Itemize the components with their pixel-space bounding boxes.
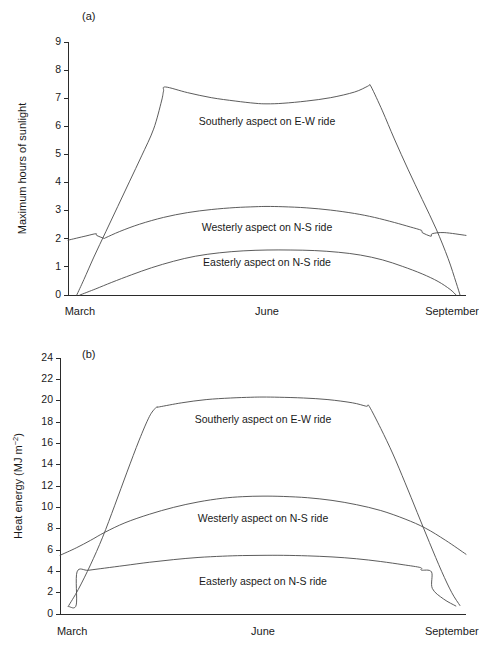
x-tick-label-a-2: September — [425, 305, 479, 317]
y-tick-label-a-4: 4 — [55, 175, 61, 187]
y-tick-label-a-9: 9 — [55, 35, 61, 47]
series-annotation-a-1: Westerly aspect on N-S ride — [202, 221, 333, 233]
series-annotation-b-0: Southerly aspect on E-W ride — [195, 413, 332, 425]
y-tick-label-a-6: 6 — [55, 119, 61, 131]
y-axis-title-a: Maximum hours of sunlight — [16, 103, 28, 234]
y-tick-label-b-10: 20 — [41, 393, 53, 405]
y-tick-label-a-0: 0 — [55, 288, 61, 300]
y-tick-label-a-7: 7 — [55, 91, 61, 103]
chart-a-canvas: 0123456789MarchJuneSeptemberMaximum hour… — [0, 0, 479, 330]
y-tick-label-b-1: 2 — [47, 585, 53, 597]
chart-b-canvas: 024681012141618202224MarchJuneSeptemberH… — [0, 330, 479, 651]
y-tick-label-a-3: 3 — [55, 203, 61, 215]
series-annotation-b-1: Westerly aspect on N-S ride — [198, 512, 329, 524]
y-axis-title-b: Heat energy (MJ m−2) — [11, 433, 25, 539]
y-axis-title-tail-b: ) — [12, 433, 24, 437]
y-tick-label-b-8: 16 — [41, 436, 53, 448]
x-tick-label-a-0: March — [65, 305, 96, 317]
x-tick-label-b-1: June — [251, 625, 275, 637]
y-tick-label-b-4: 8 — [47, 521, 53, 533]
y-tick-label-b-6: 12 — [41, 479, 53, 491]
y-tick-label-b-7: 14 — [41, 457, 53, 469]
y-tick-label-b-5: 10 — [41, 500, 53, 512]
y-axis-title-superscript-b: −2 — [11, 437, 20, 446]
panel-label-a: (a) — [82, 10, 95, 22]
chart-panel-b: 024681012141618202224MarchJuneSeptemberH… — [0, 330, 479, 651]
y-tick-label-b-3: 6 — [47, 543, 53, 555]
y-tick-label-a-5: 5 — [55, 147, 61, 159]
y-tick-label-a-8: 8 — [55, 63, 61, 75]
chart-panel-a: 0123456789MarchJuneSeptemberMaximum hour… — [0, 0, 479, 330]
series-annotation-b-2: Easterly aspect on N-S ride — [199, 575, 327, 587]
y-tick-label-a-1: 1 — [55, 260, 61, 272]
y-tick-label-b-9: 18 — [41, 415, 53, 427]
y-tick-label-b-2: 4 — [47, 564, 53, 576]
y-tick-label-a-2: 2 — [55, 232, 61, 244]
panel-label-b: (b) — [82, 348, 95, 360]
y-tick-label-b-11: 22 — [41, 372, 53, 384]
series-annotation-a-0: Southerly aspect on E-W ride — [199, 115, 336, 127]
x-tick-label-b-2: September — [425, 625, 479, 637]
x-tick-label-a-1: June — [255, 305, 279, 317]
figure-root: 0123456789MarchJuneSeptemberMaximum hour… — [0, 0, 479, 651]
series-curve-b-1 — [60, 496, 466, 555]
x-tick-label-b-0: March — [57, 625, 88, 637]
y-tick-label-b-12: 24 — [41, 351, 53, 363]
series-annotation-a-2: Easterly aspect on N-S ride — [203, 256, 331, 268]
y-tick-label-b-0: 0 — [47, 607, 53, 619]
